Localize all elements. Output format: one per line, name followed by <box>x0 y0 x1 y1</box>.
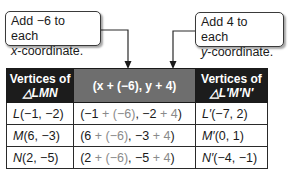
header-col1-line2: △LMN <box>7 86 73 100</box>
expr-add-y: + 4 <box>149 151 170 165</box>
table-row: N(2, −5) (2 + (−6), −5 + 4) N′(−4, −1) <box>7 147 268 169</box>
expr-add-y: + 4 <box>157 107 178 121</box>
image-label: L′ <box>202 107 211 121</box>
expr-open: (6 <box>80 129 91 143</box>
vertex-label: M <box>13 129 23 143</box>
expression-cell: (6 + (−6), −3 + 4) <box>74 125 196 147</box>
image-cell: N′(−4, −1) <box>195 147 267 169</box>
expr-close: ) <box>178 107 182 121</box>
expr-mid: , −5 <box>128 151 149 165</box>
vertex-cell: M(6, −3) <box>7 125 74 147</box>
vertex-cell: N(2, −5) <box>7 147 74 169</box>
image-cell: L′(−7, 2) <box>195 103 267 125</box>
callout-left-line1: Add −6 to each <box>11 14 95 44</box>
callout-add-x: Add −6 to each x-coordinate. <box>5 11 101 46</box>
image-label: M′ <box>202 129 215 143</box>
header-col3-line1: Vertices of <box>196 72 267 86</box>
right-connector-line <box>173 31 195 62</box>
image-cell: M′(0, 1) <box>195 125 267 147</box>
vertex-coords: (−1, −2) <box>20 107 64 121</box>
expr-mid: , −2 <box>135 107 156 121</box>
header-col3-line2: △L′M′N′ <box>196 86 267 100</box>
expr-add-y: + 4 <box>149 129 170 143</box>
expr-mid: , −3 <box>128 129 149 143</box>
vertex-coords: (2, −5) <box>22 151 58 165</box>
vertex-coords: (6, −3) <box>23 129 59 143</box>
image-coords: (−7, 2) <box>211 107 247 121</box>
header-row: Vertices of △LMN (x + (−6), y + 4) Verti… <box>7 69 268 103</box>
table-row: L(−1, −2) (−1 + (−6), −2 + 4) L′(−7, 2) <box>7 103 268 125</box>
callout-right-line2: y-coordinate. <box>201 45 278 60</box>
image-coords: (0, 1) <box>215 129 244 143</box>
expr-add-x: + (−6) <box>99 107 136 121</box>
vertex-cell: L(−1, −2) <box>7 103 74 125</box>
header-rule-text: (x + (−6), y + 4) <box>93 79 177 93</box>
callout-right-rest: -coordinate. <box>207 45 273 59</box>
expr-close: ) <box>170 151 174 165</box>
vertex-label: N <box>13 151 22 165</box>
expression-cell: (2 + (−6), −5 + 4) <box>74 147 196 169</box>
image-label: N′ <box>202 151 213 165</box>
callout-add-y: Add 4 to each y-coordinate. <box>195 12 284 47</box>
vertex-label: L <box>13 107 20 121</box>
header-col1-line1: Vertices of <box>7 72 73 86</box>
table-row: M(6, −3) (6 + (−6), −3 + 4) M′(0, 1) <box>7 125 268 147</box>
expr-add-x: + (−6) <box>91 151 128 165</box>
expression-cell: (−1 + (−6), −2 + 4) <box>74 103 196 125</box>
translation-table: Vertices of △LMN (x + (−6), y + 4) Verti… <box>6 68 268 169</box>
image-coords: (−4, −1) <box>213 151 257 165</box>
expr-close: ) <box>170 129 174 143</box>
callout-right-line1: Add 4 to each <box>201 15 278 45</box>
left-connector-line <box>101 30 128 62</box>
expr-open: (2 <box>80 151 91 165</box>
callout-left-line2: x-coordinate. <box>11 44 95 59</box>
expr-add-x: + (−6) <box>91 129 128 143</box>
expr-open: (−1 <box>80 107 98 121</box>
header-rule: (x + (−6), y + 4) <box>74 69 196 103</box>
header-image-vertices: Vertices of △L′M′N′ <box>195 69 267 103</box>
header-original-vertices: Vertices of △LMN <box>7 69 74 103</box>
callout-left-rest: -coordinate. <box>17 44 83 58</box>
